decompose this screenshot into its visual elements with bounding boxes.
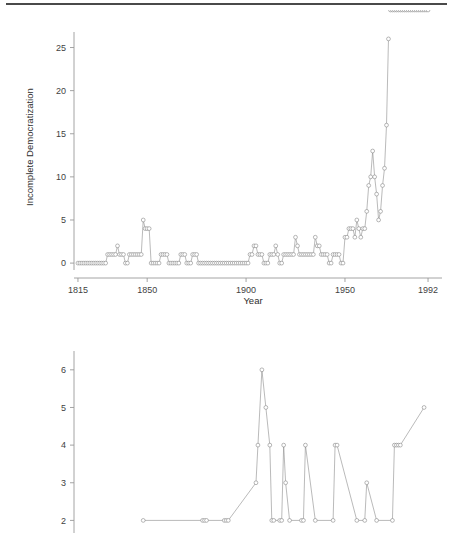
- data-point-marker: [254, 481, 258, 485]
- data-point-marker: [266, 261, 270, 265]
- data-point-marker: [114, 253, 118, 257]
- data-point-marker: [260, 368, 264, 372]
- data-point-marker: [329, 261, 333, 265]
- data-point-marker: [351, 227, 355, 231]
- data-point-marker: [385, 123, 389, 127]
- y-tick-label: 20: [56, 86, 66, 96]
- data-point-marker: [345, 235, 349, 239]
- chart-panel-incomplete-democratization: Incomplete Democratization 0510152025181…: [0, 10, 453, 310]
- data-point-marker: [272, 519, 276, 523]
- data-point-marker: [276, 253, 280, 257]
- y-tick-label: 0: [61, 258, 66, 268]
- data-point-marker: [205, 519, 209, 523]
- data-point-marker: [365, 481, 369, 485]
- data-point-marker: [254, 244, 258, 248]
- header-rule: [6, 3, 447, 5]
- data-point-marker: [355, 519, 359, 523]
- data-point-marker: [317, 244, 321, 248]
- data-point-marker: [369, 175, 373, 179]
- data-point-marker: [371, 149, 375, 153]
- data-point-marker: [292, 253, 296, 257]
- data-point-marker: [280, 519, 284, 523]
- data-point-marker: [296, 244, 300, 248]
- data-point-marker: [272, 253, 276, 257]
- data-point-marker: [139, 253, 143, 257]
- data-point-marker: [365, 209, 369, 213]
- data-point-marker: [302, 519, 306, 523]
- data-point-marker: [398, 443, 402, 447]
- data-point-marker: [363, 519, 367, 523]
- data-point-marker: [264, 406, 268, 410]
- data-point-marker: [147, 227, 151, 231]
- data-point-marker: [226, 519, 230, 523]
- x-tick-label: 1815: [68, 285, 88, 295]
- y-tick-label: 15: [56, 129, 66, 139]
- chart-panel-complete-democratization: Complete Democratization 23456: [0, 320, 453, 533]
- data-point-marker: [284, 481, 288, 485]
- data-point-marker: [331, 519, 335, 523]
- plot-area-incomplete: 051015202518151850190019501992Year: [0, 10, 453, 310]
- series-polyline: [78, 39, 389, 263]
- data-point-marker: [359, 235, 363, 239]
- data-point-marker: [387, 37, 391, 41]
- data-point-marker: [311, 253, 315, 257]
- data-point-marker: [337, 253, 341, 257]
- data-point-marker: [363, 227, 367, 231]
- data-point-marker: [104, 261, 108, 265]
- y-tick-label: 25: [56, 43, 66, 53]
- x-tick-label: 1900: [236, 285, 256, 295]
- y-tick-label: 3: [61, 478, 66, 488]
- data-point-marker: [288, 519, 292, 523]
- plot-area-complete: 23456: [0, 320, 453, 533]
- data-point-marker: [189, 261, 193, 265]
- y-tick-label: 4: [61, 440, 66, 450]
- data-point-marker: [353, 235, 357, 239]
- data-point-marker: [381, 184, 385, 188]
- y-tick-label: 2: [61, 516, 66, 526]
- data-point-marker: [282, 443, 286, 447]
- data-point-marker: [195, 253, 199, 257]
- data-point-marker: [280, 261, 284, 265]
- data-point-marker: [375, 519, 379, 523]
- figure-page: Incomplete Democratization 0510152025181…: [0, 0, 453, 533]
- data-point-marker: [177, 261, 181, 265]
- data-point-marker: [304, 443, 308, 447]
- x-tick-label: 1850: [137, 285, 157, 295]
- x-axis-title: Year: [243, 295, 262, 306]
- data-point-marker: [422, 406, 426, 410]
- y-tick-label: 5: [61, 215, 66, 225]
- data-point-marker: [379, 209, 383, 213]
- data-point-marker: [116, 244, 120, 248]
- y-tick-label: 6: [61, 365, 66, 375]
- data-point-marker: [165, 253, 169, 257]
- data-point-marker: [294, 235, 298, 239]
- data-point-marker: [383, 166, 387, 170]
- data-point-marker: [246, 261, 250, 265]
- data-point-marker: [141, 218, 145, 222]
- data-point-marker: [141, 519, 145, 523]
- data-point-marker: [335, 443, 339, 447]
- data-point-marker: [256, 443, 260, 447]
- data-point-marker: [377, 218, 381, 222]
- y-tick-label: 10: [56, 172, 66, 182]
- data-point-marker: [355, 218, 359, 222]
- data-point-marker: [126, 261, 130, 265]
- data-point-marker: [426, 10, 430, 12]
- data-point-marker: [268, 443, 272, 447]
- data-point-marker: [274, 244, 278, 248]
- data-point-marker: [183, 253, 187, 257]
- data-point-marker: [260, 253, 264, 257]
- x-tick-label: 1992: [418, 285, 438, 295]
- data-point-marker: [250, 253, 254, 257]
- data-point-marker: [391, 519, 395, 523]
- data-point-marker: [367, 184, 371, 188]
- data-point-marker: [373, 175, 377, 179]
- data-point-marker: [375, 192, 379, 196]
- data-point-marker: [313, 235, 317, 239]
- y-tick-label: 5: [61, 403, 66, 413]
- data-point-marker: [325, 253, 329, 257]
- data-point-marker: [341, 261, 345, 265]
- data-point-marker: [157, 261, 161, 265]
- data-point-marker: [313, 519, 317, 523]
- x-tick-label: 1950: [335, 285, 355, 295]
